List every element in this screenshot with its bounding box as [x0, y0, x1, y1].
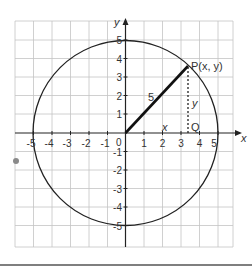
- horizontal-length-label: x: [161, 121, 168, 133]
- x-axis-label: x: [240, 132, 247, 144]
- y-tick-label: -5: [113, 221, 122, 232]
- x-tick-label: -1: [101, 138, 110, 149]
- point-q-label: Q: [191, 121, 200, 133]
- axes: [15, 22, 238, 247]
- vertical-length-label: y: [191, 97, 199, 109]
- x-tick-label: -2: [82, 138, 91, 149]
- origin-label: 0: [116, 137, 122, 148]
- radius-line: [126, 66, 189, 133]
- y-tick-label: 2: [116, 91, 122, 102]
- diagram-canvas: -5 -4 -3 -2 -1 1 2 3 4 5 5 4 3 2 1 -1 -2…: [0, 0, 252, 274]
- x-tick-label: 5: [211, 138, 217, 149]
- x-tick-label: 1: [141, 138, 147, 149]
- stray-dot: [13, 158, 19, 164]
- y-tick-label: -4: [113, 202, 122, 213]
- x-tick-label: 2: [160, 138, 166, 149]
- x-tick-label: 4: [197, 138, 203, 149]
- y-tick-label: -3: [113, 184, 122, 195]
- x-tick-label: -3: [63, 138, 72, 149]
- radius-length-label: 5: [148, 91, 154, 103]
- x-tick-label: -5: [27, 138, 36, 149]
- y-tick-label: 1: [116, 109, 122, 120]
- y-tick-label: 4: [116, 54, 122, 65]
- x-tick-label: -4: [45, 138, 54, 149]
- x-tick-label: 3: [178, 138, 184, 149]
- y-tick-label: -1: [113, 147, 122, 158]
- grid: [15, 21, 233, 247]
- y-axis-arrow-icon: [123, 18, 129, 25]
- y-axis-label: y: [113, 16, 121, 28]
- y-tick-label: 5: [116, 35, 122, 46]
- y-tick-label: 3: [116, 72, 122, 83]
- y-tick-label: -2: [113, 165, 122, 176]
- point-p-label: P(x, y): [191, 60, 223, 72]
